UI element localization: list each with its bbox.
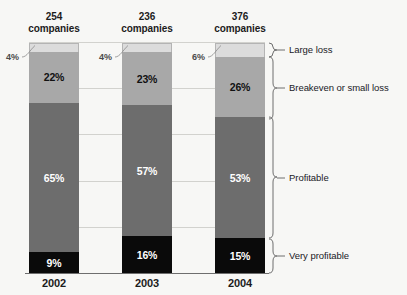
segment-2003-breakeven[interactable]: 23%	[122, 52, 172, 105]
brace-profitable	[269, 117, 277, 238]
column-header-2002: 254 companies	[14, 11, 94, 34]
year-label-2004: 2004	[215, 277, 265, 289]
bar-2003[interactable]: 23% 57% 16%	[122, 43, 172, 273]
segment-label: 23%	[137, 73, 157, 85]
segment-2004-large-loss[interactable]	[215, 43, 265, 57]
column-header-2003: 236 companies	[107, 11, 187, 34]
company-unit-2004: companies	[200, 23, 280, 35]
segment-2003-large-loss[interactable]	[122, 43, 172, 52]
category-label-profitable: Profitable	[289, 172, 329, 183]
company-count-2002: 254	[14, 11, 94, 23]
column-header-2004: 376 companies	[200, 11, 280, 34]
brace-breakeven	[269, 57, 277, 119]
bar-2004[interactable]: 26% 53% 15%	[215, 43, 265, 273]
brace-large-loss	[269, 43, 277, 57]
category-label-breakeven: Breakeven or small loss	[289, 82, 389, 93]
axis-baseline	[25, 273, 269, 274]
segment-label: 15%	[230, 250, 250, 262]
year-label-2002: 2002	[29, 277, 79, 289]
segment-label: 65%	[44, 172, 64, 184]
segment-2002-profitable[interactable]: 65%	[29, 103, 79, 253]
callout-2002-large-loss: 4%	[6, 52, 19, 62]
segment-label: 16%	[137, 249, 157, 261]
segment-2003-profitable[interactable]: 57%	[122, 105, 172, 236]
segment-2002-large-loss[interactable]	[29, 43, 79, 52]
company-count-2004: 376	[200, 11, 280, 23]
segment-2004-very-profitable[interactable]: 15%	[215, 238, 265, 273]
segment-2002-very-profitable[interactable]: 9%	[29, 252, 79, 273]
segment-label: 53%	[230, 172, 250, 184]
segment-label: 57%	[137, 165, 157, 177]
segment-2003-very-profitable[interactable]: 16%	[122, 236, 172, 273]
segment-label: 22%	[44, 71, 64, 83]
callout-2003-large-loss: 4%	[99, 52, 112, 62]
category-label-large-loss: Large loss	[289, 44, 332, 55]
segment-2004-profitable[interactable]: 53%	[215, 117, 265, 239]
year-label-2003: 2003	[122, 277, 172, 289]
company-unit-2002: companies	[14, 23, 94, 35]
segment-label: 26%	[230, 81, 250, 93]
category-label-very-profitable: Very profitable	[289, 250, 349, 261]
segment-2004-breakeven[interactable]: 26%	[215, 57, 265, 117]
company-count-2003: 236	[107, 11, 187, 23]
company-unit-2003: companies	[107, 23, 187, 35]
callout-2004-large-loss: 6%	[192, 52, 205, 62]
segment-2002-breakeven[interactable]: 22%	[29, 52, 79, 103]
segment-label: 9%	[47, 257, 62, 269]
brace-very-profitable	[269, 239, 277, 273]
stacked-bar-chart: 254 companies 236 companies 376 companie…	[0, 0, 407, 295]
bar-2002[interactable]: 22% 65% 9%	[29, 43, 79, 273]
